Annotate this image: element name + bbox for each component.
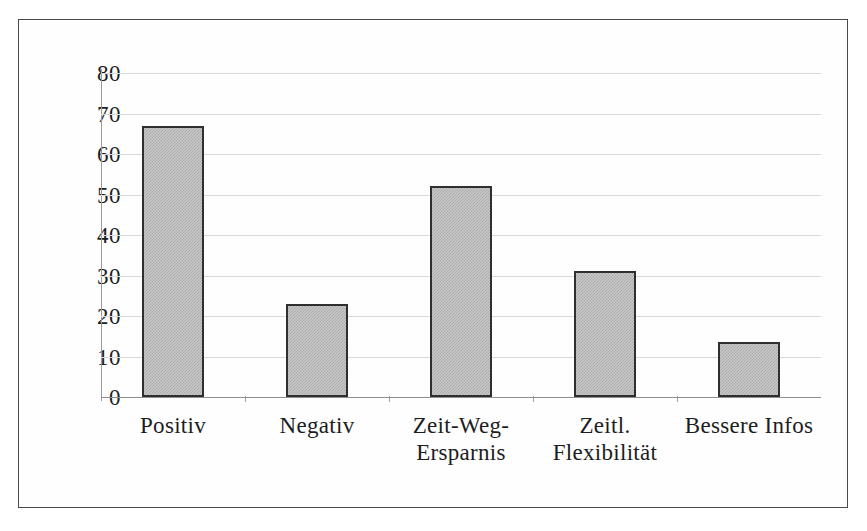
x-category-label: Negativ (245, 412, 389, 439)
bar (286, 304, 348, 397)
bar (142, 126, 204, 397)
x-category-label: Positiv (101, 412, 245, 439)
bar (430, 186, 492, 397)
x-category-label: Zeitl. Flexibilität (533, 412, 677, 466)
x-tick-mark (245, 396, 246, 402)
x-tick-mark (533, 396, 534, 402)
x-tick-mark (677, 396, 678, 402)
bar-slot (677, 73, 821, 397)
plot-area (101, 73, 821, 397)
x-category-label: Zeit-Weg- Ersparnis (389, 412, 533, 466)
bar (574, 271, 636, 397)
gridline-0 (101, 397, 821, 398)
bar (718, 342, 780, 397)
chart-figure: 01020304050607080 PositivNegativZeit-Weg… (18, 19, 848, 508)
x-category-label: Bessere Infos (677, 412, 821, 439)
bar-slot (245, 73, 389, 397)
bar-slot (101, 73, 245, 397)
bar-slot (533, 73, 677, 397)
bar-slot (389, 73, 533, 397)
x-tick-mark (389, 396, 390, 402)
